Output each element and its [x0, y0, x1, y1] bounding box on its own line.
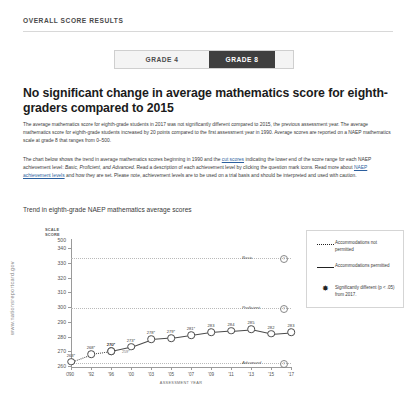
y-tick-320: 320	[44, 275, 66, 281]
data-point[interactable]	[227, 327, 235, 335]
x-tickmark	[111, 367, 112, 370]
x-tick-90: '90	[68, 372, 74, 377]
y-tickmark	[68, 337, 71, 338]
x-axis	[71, 367, 291, 368]
y-tick-330: 330	[44, 260, 66, 266]
x-tickmark	[131, 367, 132, 370]
x-tick-05: '05	[168, 372, 174, 377]
y-tickmark	[68, 322, 71, 323]
legend-label-3: Significantly different (p < .05) from 2…	[335, 285, 397, 298]
data-point-label: 278*	[147, 330, 155, 335]
x-tick-09: '09	[208, 372, 214, 377]
y-tick-500: 500	[44, 237, 66, 243]
x-tickmark	[71, 367, 72, 370]
y-tickmark	[68, 278, 71, 279]
x-tickmark	[191, 367, 192, 370]
dotted-line-icon	[315, 240, 335, 248]
x-tick-92: '92	[88, 372, 94, 377]
y-tick-340: 340	[44, 245, 66, 251]
p2-part-a: The chart below shows the trend in avera…	[23, 157, 222, 162]
data-point[interactable]	[267, 330, 275, 338]
data-point[interactable]	[287, 328, 295, 336]
legend-item-accommodations-permitted: Accommodations permitted	[315, 263, 397, 271]
x-tick-13: '13	[248, 372, 254, 377]
data-point-label: 273*	[127, 338, 135, 343]
data-point[interactable]	[247, 325, 255, 333]
paragraph-2: The chart below shows the trend in avera…	[23, 156, 395, 180]
y-tick-310: 310	[44, 289, 66, 295]
data-point[interactable]	[87, 350, 95, 358]
achievement-label-advanced: Basic	[242, 255, 253, 260]
x-tickmark	[291, 367, 292, 370]
y-tick-290: 290	[44, 319, 66, 325]
data-point[interactable]	[147, 336, 155, 344]
data-point-label: 279*	[167, 329, 175, 334]
data-point[interactable]	[167, 334, 175, 342]
data-point-label: 283	[208, 323, 215, 328]
legend-label-2: Accommodations permitted	[335, 263, 397, 270]
chart-legend: Accommodations not permitted Accommodati…	[306, 230, 404, 308]
x-tickmark	[211, 367, 212, 370]
y-tickmark	[68, 248, 71, 249]
y-tickmark	[68, 292, 71, 293]
legend-item-significant-difference: ✸ Significantly different (p < .05) from…	[315, 285, 397, 298]
data-point[interactable]	[187, 331, 195, 339]
help-icon-advanced[interactable]: ?	[280, 255, 288, 263]
p2-part-d: . Read a description of each achievement…	[134, 165, 354, 170]
legend-item-accommodations-not-permitted: Accommodations not permitted	[315, 240, 397, 253]
naep-report-page: www.nationsreportcard.gov OVERALL SCORE …	[0, 0, 416, 396]
grade-toggle[interactable]: GRADE 4 GRADE 8	[114, 50, 294, 69]
data-point-label: 282	[268, 325, 275, 330]
x-tick-17: '17	[288, 372, 294, 377]
star-icon: ✸	[315, 285, 335, 293]
solid-line-icon	[315, 263, 335, 271]
cut-line-advanced	[71, 258, 291, 259]
x-tickmark	[231, 367, 232, 370]
x-tickmark	[171, 367, 172, 370]
x-tickmark	[151, 367, 152, 370]
y-tick-300: 300	[44, 304, 66, 310]
data-point-label: 270*	[107, 342, 115, 347]
page-title: No significant change in average mathema…	[23, 86, 395, 117]
data-point-label: 268*	[87, 345, 95, 350]
achievement-label-basic: Advanced	[242, 360, 261, 365]
cut-annotation: 259*	[122, 350, 130, 354]
y-tick-260: 260	[44, 363, 66, 369]
legend-label-1: Accommodations not permitted	[335, 240, 397, 253]
y-tick-270: 270	[44, 348, 66, 354]
data-point-label: 285	[248, 320, 255, 325]
x-tick-11: '11	[228, 372, 234, 377]
x-tickmark	[91, 367, 92, 370]
chart-title: Trend in eighth-grade NAEP mathematics a…	[23, 206, 192, 213]
grade-toggle-tail	[275, 51, 293, 68]
data-point-label: 284	[228, 322, 235, 327]
data-point[interactable]	[67, 358, 75, 366]
x-tick-07: '07	[188, 372, 194, 377]
data-point[interactable]	[107, 347, 115, 355]
help-icon-basic[interactable]: ?	[280, 360, 288, 368]
y-tickmark	[68, 263, 71, 264]
header-divider	[23, 31, 393, 32]
p2-levels: Basic, Proficient, and Advanced	[65, 165, 134, 170]
x-tick-00: '00	[128, 372, 134, 377]
p2-part-e: and how they are set. Please note, achie…	[65, 173, 357, 178]
x-tick-03: '03	[148, 372, 154, 377]
data-point[interactable]	[207, 328, 215, 336]
x-tick-96: '96	[108, 372, 114, 377]
y-tick-280: 280	[44, 334, 66, 340]
cut-scores-link[interactable]: cut scores	[222, 157, 244, 162]
achievement-label-proficient: Proficient	[242, 305, 260, 310]
x-tickmark	[271, 367, 272, 370]
x-axis-title: ASSESSMENT YEAR	[160, 381, 202, 385]
help-icon-proficient[interactable]: ?	[280, 305, 288, 313]
grade-4-button[interactable]: GRADE 4	[115, 51, 209, 68]
paragraph-1: The average mathematics score for eighth…	[23, 121, 395, 145]
data-point-label: 283	[288, 323, 295, 328]
x-tickmark	[251, 367, 252, 370]
x-tick-15: '15	[268, 372, 274, 377]
grade-8-button[interactable]: GRADE 8	[209, 51, 275, 68]
y-axis-title: SCALESCORE	[45, 228, 60, 237]
data-point-label: 263*	[67, 353, 75, 358]
data-point-label: 281*	[187, 326, 195, 331]
section-header: OVERALL SCORE RESULTS	[23, 17, 123, 24]
